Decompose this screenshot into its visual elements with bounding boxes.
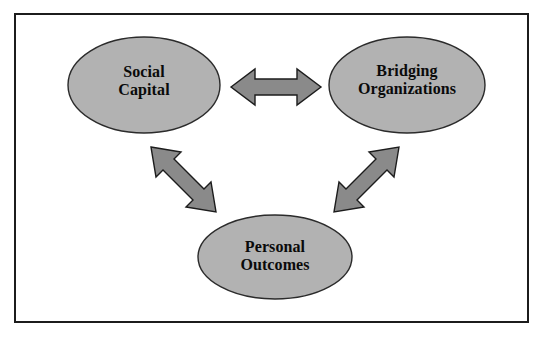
node-personal-outcomes[interactable] (198, 215, 352, 299)
node-bridging-organizations[interactable] (329, 37, 485, 133)
arrow-bridging-organizations-to-personal-outcomes[interactable] (334, 147, 399, 212)
arrow-social-capital-to-personal-outcomes[interactable] (151, 147, 216, 212)
diagram-canvas: Social Capital Bridging Organizations Pe… (0, 0, 547, 337)
diagram-graphics (0, 0, 547, 337)
node-social-capital[interactable] (68, 37, 220, 133)
arrow-social-capital-to-bridging-organizations[interactable] (231, 69, 321, 105)
